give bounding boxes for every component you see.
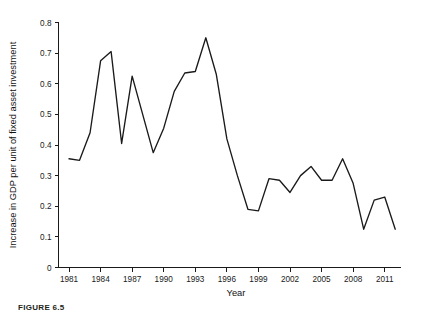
- figure-container: 00.10.20.30.40.50.60.70.8 19811984198719…: [0, 0, 431, 320]
- x-tick-label: 1981: [60, 275, 79, 284]
- y-tick-label: 0.3: [40, 172, 52, 181]
- y-tick-label: 0.8: [40, 19, 52, 28]
- x-tick-label: 2011: [376, 275, 394, 284]
- x-tick-label: 1999: [249, 275, 268, 284]
- line-chart: 00.10.20.30.40.50.60.70.8 19811984198719…: [0, 0, 431, 320]
- y-tick-label: 0.4: [40, 141, 52, 150]
- x-tick-label: 1987: [123, 275, 142, 284]
- y-axis: 00.10.20.30.40.50.60.70.8: [40, 19, 58, 273]
- series-line: [69, 38, 395, 229]
- y-tick-label: 0.7: [40, 49, 52, 58]
- x-axis: 1981198419871990199319961999200220052008…: [59, 268, 401, 284]
- x-tick-label: 2008: [344, 275, 363, 284]
- y-tick-label: 0.5: [40, 110, 52, 119]
- y-tick-label: 0.6: [40, 80, 52, 89]
- x-tick-label: 2002: [281, 275, 300, 284]
- y-axis-title: Increase in GDP per unit of fixed asset …: [8, 41, 18, 248]
- x-tick-label: 1990: [155, 275, 174, 284]
- y-tick-label: 0: [47, 264, 52, 273]
- figure-caption: FIGURE 6.5: [18, 303, 65, 312]
- x-tick-label: 2005: [312, 275, 331, 284]
- y-tick-label: 0.2: [40, 202, 52, 211]
- x-tick-label: 1984: [91, 275, 110, 284]
- x-tick-label: 1996: [218, 275, 237, 284]
- y-tick-label: 0.1: [40, 233, 52, 242]
- x-axis-title: Year: [227, 288, 246, 298]
- data-series: [69, 38, 395, 229]
- x-tick-label: 1993: [186, 275, 205, 284]
